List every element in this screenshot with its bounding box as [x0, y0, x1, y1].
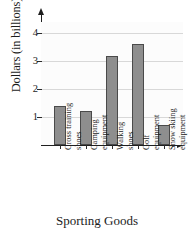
- y-axis-title: Dollars (in billions): [7, 0, 25, 105]
- x-axis-category-label-line: Camping: [90, 86, 100, 150]
- x-axis-category-label-line: Cross training: [64, 86, 74, 150]
- x-axis-tick: [60, 145, 61, 149]
- bar-chart: Dollars (in billions) 1234 Cross trainin…: [0, 0, 194, 234]
- x-axis-category-label-line: equipment: [152, 86, 162, 150]
- x-axis-category-label-line: equipment: [178, 86, 188, 150]
- x-axis-category-label-line: shoes: [126, 86, 136, 150]
- x-axis-category-label: Walkingshoes: [116, 86, 142, 150]
- x-axis-category-label: Campingequipment: [90, 86, 116, 150]
- y-axis-tick-label: 3: [33, 56, 38, 67]
- x-axis-category-label-line: Walking: [116, 86, 126, 150]
- y-axis-tick-label: 2: [33, 84, 38, 95]
- x-axis-category-label-line: equipment: [100, 86, 110, 150]
- x-axis-title: Sporting Goods: [0, 213, 194, 229]
- x-axis-category-label-line: Snow skiing: [168, 86, 178, 150]
- x-axis-category-label-line: Golf: [142, 86, 152, 150]
- y-axis-tick-label: 1: [33, 112, 38, 123]
- x-axis-category-label: Golfequipment: [142, 86, 168, 150]
- y-axis-tick-label: 4: [33, 28, 38, 39]
- x-axis-category-label-line: shoes: [74, 86, 84, 150]
- y-axis-arrow-icon: [38, 8, 44, 15]
- x-axis-category-label: Cross trainingshoes: [64, 86, 90, 150]
- x-axis-category-label: Snow skiingequipment: [168, 86, 194, 150]
